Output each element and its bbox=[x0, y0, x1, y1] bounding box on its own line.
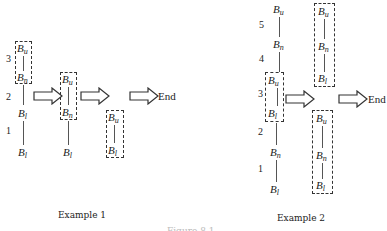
edge-line bbox=[114, 125, 115, 143]
edge-line bbox=[23, 56, 24, 71]
transform-arrow-icon bbox=[33, 87, 63, 105]
edge-line bbox=[324, 54, 325, 72]
transform-arrow-icon bbox=[80, 87, 110, 105]
end-arrow-icon bbox=[129, 87, 159, 105]
node-label: Bl bbox=[318, 72, 327, 88]
edge-line bbox=[276, 123, 277, 145]
edge-line bbox=[277, 88, 278, 106]
node-label: Bl bbox=[63, 146, 72, 162]
example-2-caption: Example 2 bbox=[277, 213, 325, 223]
edge-line bbox=[322, 126, 323, 148]
level-label: 3 bbox=[258, 89, 263, 99]
node-label: Bl bbox=[108, 144, 117, 160]
level-label: 3 bbox=[6, 54, 11, 64]
node-label: Bl bbox=[18, 146, 27, 162]
example-1-caption: Example 1 bbox=[58, 210, 106, 220]
end-label: End bbox=[158, 90, 176, 102]
end-arrow-icon bbox=[338, 90, 368, 108]
level-label: 2 bbox=[258, 127, 263, 137]
edge-line bbox=[23, 121, 24, 145]
transform-arrow-icon bbox=[285, 90, 315, 108]
edge-line bbox=[276, 160, 277, 182]
level-label: 2 bbox=[6, 92, 11, 102]
level-label: 4 bbox=[259, 54, 264, 64]
node-label: Bl bbox=[270, 183, 279, 199]
edge-line bbox=[322, 163, 323, 179]
end-label: End bbox=[368, 93, 386, 105]
edge-line bbox=[279, 17, 280, 37]
edge-line bbox=[23, 85, 24, 105]
node-label: Bn bbox=[62, 106, 73, 122]
edge-line bbox=[324, 19, 325, 39]
figure-caption: Figure 8.1 bbox=[167, 226, 214, 231]
level-label: 1 bbox=[6, 126, 11, 136]
node-label: Bl bbox=[316, 179, 325, 195]
level-label: 1 bbox=[258, 164, 263, 174]
edge-line bbox=[68, 121, 69, 145]
edge-line bbox=[68, 87, 69, 105]
level-label: 5 bbox=[259, 20, 264, 30]
node-label: Bl bbox=[268, 107, 277, 123]
edge-line bbox=[279, 52, 280, 72]
